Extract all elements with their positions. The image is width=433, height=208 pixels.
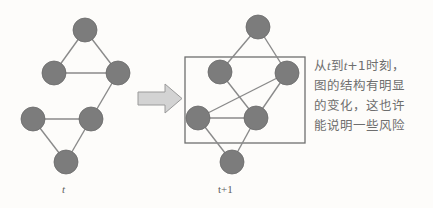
graph-node bbox=[106, 61, 130, 85]
transition-arrow bbox=[138, 84, 182, 113]
graph-node bbox=[186, 106, 210, 130]
graph-node bbox=[42, 61, 66, 85]
graph-node bbox=[275, 61, 299, 85]
annotation-text: 从t到t+1时刻， 图的结构有明显 的变化，这也许 能说明一些风险 bbox=[314, 56, 430, 136]
annotation-line-1: 从t到t+1时刻， bbox=[314, 56, 430, 76]
graph-node bbox=[220, 150, 244, 174]
graph-node bbox=[246, 15, 270, 39]
right-graph-edges bbox=[198, 27, 287, 162]
caption-right-label: t+1 bbox=[218, 183, 233, 195]
arrow-shape bbox=[138, 84, 182, 113]
annotation-line1-part2: 到 bbox=[331, 58, 344, 73]
graph-node bbox=[79, 107, 103, 131]
right-graph bbox=[185, 15, 305, 174]
graph-node bbox=[21, 107, 45, 131]
left-graph-edges bbox=[33, 30, 118, 162]
annotation-line-2: 图的结构有明显 bbox=[314, 76, 430, 96]
right-graph-nodes bbox=[186, 15, 299, 174]
left-graph bbox=[21, 18, 130, 174]
annotation-line-3: 的变化，这也许 bbox=[314, 96, 430, 116]
graph-node bbox=[208, 60, 232, 84]
graph-node bbox=[73, 18, 97, 42]
annotation-line-4: 能说明一些风险 bbox=[314, 116, 430, 136]
left-graph-nodes bbox=[21, 18, 130, 174]
graph-node bbox=[54, 150, 78, 174]
annotation-line1-part1: 从 bbox=[314, 58, 327, 73]
caption-left-graph: t bbox=[62, 183, 65, 195]
annotation-line1-part3: +1时刻， bbox=[347, 58, 404, 73]
caption-left-label: t bbox=[62, 183, 65, 195]
caption-right-graph: t+1 bbox=[218, 183, 233, 195]
graph-node bbox=[244, 106, 268, 130]
